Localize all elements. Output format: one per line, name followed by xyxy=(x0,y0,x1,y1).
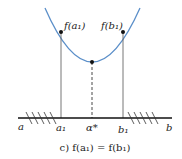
axis-label-a1: a₁ xyxy=(56,122,66,133)
axis-label-alpha-star: α* xyxy=(86,122,98,133)
label-f-a1: f(a₁) xyxy=(63,20,86,31)
point-f-a1 xyxy=(59,30,63,34)
point-minimum xyxy=(90,60,94,64)
label-f-b1: f(b₁) xyxy=(100,20,123,31)
axis-label-a: a xyxy=(18,121,24,132)
axis-label-b1: b₁ xyxy=(118,124,128,135)
diagram-canvas: f(a₁) f(b₁) a a₁ α* b₁ b c) f(a₁) = f(b₁… xyxy=(0,0,182,159)
function-curve xyxy=(45,8,140,62)
axis-label-b: b xyxy=(166,122,172,133)
caption: c) f(a₁) = f(b₁) xyxy=(60,142,131,153)
